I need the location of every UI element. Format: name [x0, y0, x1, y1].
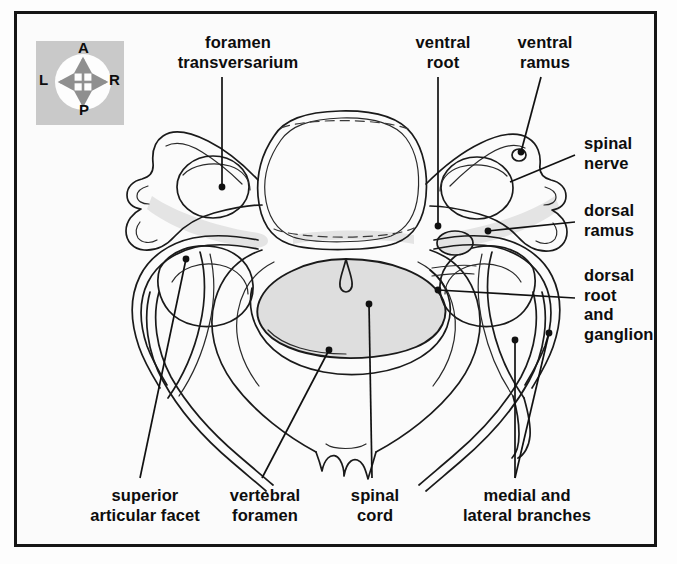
label-vertebral-foramen-line-1: vertebral: [230, 486, 301, 506]
label-spinal-cord-line-1: spinal: [351, 486, 399, 506]
label-dorsal-root-and-ganglion-line-3: and: [584, 305, 654, 325]
label-medial-and-lateral-branches-line-2: lateral branches: [463, 506, 591, 526]
label-spinal-nerve-line-1: spinal: [584, 134, 632, 154]
label-superior-articular-facet-line-1: superior: [90, 486, 200, 506]
label-dorsal-root-and-ganglion-line-4: ganglion: [584, 325, 654, 345]
label-vertebral-foramen-line-2: foramen: [230, 506, 301, 526]
label-dorsal-root-and-ganglion-line-1: dorsal: [584, 266, 654, 286]
label-vertebral-foramen: vertebralforamen: [230, 486, 301, 525]
label-superior-articular-facet-line-2: articular facet: [90, 506, 200, 526]
label-ventral-ramus: ventralramus: [518, 33, 573, 72]
label-spinal-cord-line-2: cord: [351, 506, 399, 526]
compass-right-label: R: [109, 71, 120, 88]
label-ventral-root-line-1: ventral: [416, 33, 471, 53]
label-dorsal-ramus-line-2: ramus: [584, 221, 634, 241]
label-dorsal-ramus: dorsalramus: [584, 201, 634, 240]
label-ventral-root: ventralroot: [416, 33, 471, 72]
label-superior-articular-facet: superiorarticular facet: [90, 486, 200, 525]
orientation-compass: A P L R: [36, 41, 124, 125]
left-superior-articular-facet: [158, 246, 253, 327]
label-ventral-root-line-2: root: [416, 53, 471, 73]
label-medial-and-lateral-branches: medial andlateral branches: [463, 486, 591, 525]
label-dorsal-root-and-ganglion: dorsalrootandganglion: [584, 266, 654, 344]
label-foramen-transversarium-line-2: transversarium: [178, 53, 299, 73]
compass-anterior-label: A: [78, 39, 89, 56]
compass-posterior-label: P: [79, 101, 89, 118]
label-spinal-cord: spinalcord: [351, 486, 399, 525]
label-foramen-transversarium: foramentransversarium: [178, 33, 299, 72]
label-foramen-transversarium-line-1: foramen: [178, 33, 299, 53]
left-nerve-complex: [132, 236, 273, 491]
compass-left-label: L: [39, 71, 48, 88]
label-dorsal-ramus-line-1: dorsal: [584, 201, 634, 221]
label-spinal-nerve: spinalnerve: [584, 134, 632, 173]
spinal-cord: [257, 259, 445, 358]
label-dorsal-root-and-ganglion-line-2: root: [584, 286, 654, 306]
vertebral-body: [258, 111, 427, 250]
spinous-process: [316, 444, 376, 479]
label-ventral-ramus-line-1: ventral: [518, 33, 573, 53]
label-spinal-nerve-line-2: nerve: [584, 154, 632, 174]
label-medial-and-lateral-branches-line-1: medial and: [463, 486, 591, 506]
label-ventral-ramus-line-2: ramus: [518, 53, 573, 73]
